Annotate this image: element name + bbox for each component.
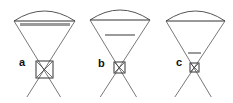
image-bar (188, 52, 201, 54)
dome-arc (90, 10, 150, 20)
ray-left (90, 20, 137, 97)
panel-c: c (166, 11, 225, 97)
image-bar (105, 34, 135, 36)
ray-left (166, 21, 211, 97)
ray-right (27, 21, 75, 97)
image-bar (20, 23, 70, 26)
dome-arc (166, 11, 225, 21)
dome-arc (14, 11, 75, 21)
panel-label: b (98, 57, 105, 69)
panel-b: b (90, 10, 150, 97)
panel-label: a (19, 56, 26, 68)
panel-a: a (14, 11, 75, 97)
optics-diagram: abc (0, 0, 233, 103)
panel-label: c (176, 56, 182, 68)
ray-right (175, 21, 225, 97)
ray-right (100, 20, 150, 97)
